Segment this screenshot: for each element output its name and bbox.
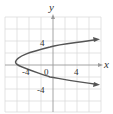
y-axis-label: y [48,1,54,13]
x-axis-label: x [103,58,109,70]
x-tick-0: 0 [44,67,49,77]
y-tick-4: 4 [40,38,45,48]
parabola-curve [15,40,96,84]
x-tick-4: 4 [74,67,79,77]
curve-arrow-bottom-icon [93,82,100,87]
x-axis-arrow-icon [98,63,103,67]
x-tick-neg4: -4 [22,67,30,77]
chart: y x 4 -4 -4 0 4 [0,0,113,114]
y-tick-neg4: -4 [37,85,45,95]
y-axis-arrow-icon [51,14,55,19]
